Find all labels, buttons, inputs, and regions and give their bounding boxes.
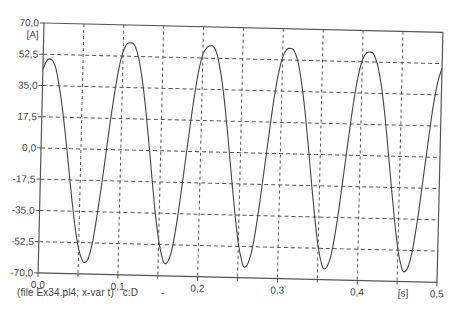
plot-area: 70,052,535,017,50,0-17,5-35,0-52,5-70,0 …	[10, 17, 450, 300]
y-tick-label: 70,0	[19, 17, 39, 28]
x-axis-unit-label: [s]	[398, 287, 409, 298]
x-tick-label: 0,4	[350, 286, 365, 297]
y-tick-label: 17,5	[17, 111, 37, 122]
y-tick-label: -17,5	[12, 173, 35, 185]
footer-dash: -	[161, 287, 164, 298]
y-tick-label: 52,5	[19, 48, 39, 59]
chart: 70,052,535,017,50,0-17,5-35,0-52,5-70,0 …	[0, 0, 459, 313]
y-axis-unit-label: [A]	[26, 29, 39, 40]
y-tick-label: -52,5	[11, 236, 34, 248]
y-tick-label: -35,0	[12, 204, 35, 216]
y-tick-label: -70,0	[10, 267, 33, 279]
y-tick-label: 0,0	[22, 142, 37, 153]
x-tick-label: 0,2	[190, 283, 205, 294]
variable-label: c:D	[123, 287, 138, 298]
x-tick-label: 0,5	[430, 288, 445, 299]
file-info-label: (file Ex34.pl4; x-var t)	[17, 287, 114, 298]
plot-footer: (file Ex34.pl4; x-var t) c:D -	[17, 287, 170, 298]
x-tick-label: 0,3	[270, 284, 285, 295]
grid-lines	[38, 23, 443, 282]
y-tick-label: 35,0	[18, 79, 38, 90]
